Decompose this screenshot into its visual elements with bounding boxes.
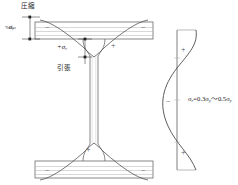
formula-term1: 0.3σ [197, 95, 209, 102]
sign-beam-top-left: − [45, 23, 50, 32]
dimension-lines-plus [78, 39, 92, 57]
formula-range: ～ [211, 95, 218, 102]
sign-beam-bottom-center: + [86, 145, 91, 154]
formula-term2: 0.5σ [218, 95, 230, 102]
sigma-negative-text: −σ [4, 23, 12, 31]
sign-beam-mid-right: + [111, 41, 116, 50]
web-hatch [92, 57, 96, 143]
curve-top-inner-left [83, 47, 94, 57]
residual-stress-diagram: − − + + − − [0, 0, 238, 185]
sign-profile-top: + [181, 45, 186, 54]
i-beam-section [35, 22, 153, 178]
formula-residual-stress: σr=0.3σy～0.5σy [188, 96, 232, 104]
curve-bottom-inner-right [94, 143, 105, 153]
sign-profile-middle: − [166, 97, 171, 106]
label-compression: 圧縮 [21, 3, 35, 10]
sign-profile-bottom: + [181, 148, 186, 157]
sign-beam-bottom-right: − [141, 166, 146, 175]
sign-beam-top-right: − [141, 23, 146, 32]
sigma-negative-subscript: r [12, 26, 14, 31]
curve-top-inner-right [94, 47, 105, 57]
label-sigma-positive: +σr [57, 44, 67, 52]
label-sigma-negative: −σr [4, 24, 14, 32]
sigma-positive-subscript: r [65, 46, 67, 51]
formula-term2-sub: y [230, 98, 232, 103]
sign-beam-bottom-left: − [45, 166, 50, 175]
label-tension: 引張 [57, 65, 71, 72]
sigma-positive-text: +σ [57, 43, 65, 51]
